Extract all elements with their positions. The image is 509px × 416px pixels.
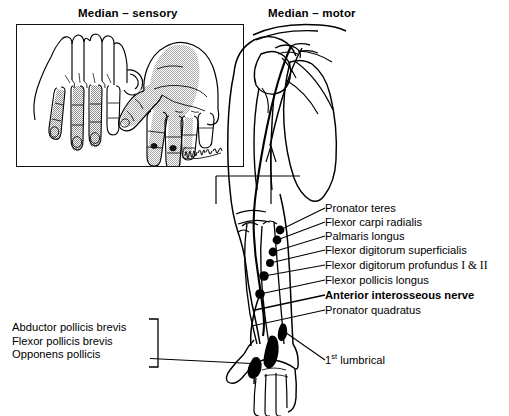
label-first-lumbrical: 1st lumbrical	[325, 355, 385, 366]
hand-thenar-view	[226, 324, 298, 416]
label-abductor-pollicis-brevis: Abductor pollicis brevis	[12, 322, 126, 333]
label-anterior-interosseous-nerve: Anterior interosseous nerve	[325, 290, 474, 301]
label-flexor-digitorum-superficialis: Flexor digitorum superficialis	[325, 245, 467, 256]
label-fdp-text: Flexor digitorum profundus I & II	[325, 259, 488, 271]
dorsal-hand-view	[34, 34, 143, 151]
thenar-group-bracket	[148, 318, 170, 368]
thenar-muscle-mass-lower	[248, 357, 262, 379]
dorsal-sensory-shading	[49, 85, 102, 151]
thenar-muscle-mass-upper	[263, 336, 278, 369]
fdp-roman-numerals: I & II	[461, 259, 487, 272]
leader-lines-right	[252, 208, 325, 360]
label-flexor-pollicis-brevis: Flexor pollicis brevis	[12, 336, 126, 347]
shoulder-girdle	[228, 24, 346, 201]
label-pronator-teres: Pronator teres	[325, 203, 396, 214]
thenar-muscle-label-group: Abductor pollicis brevis Flexor pollicis…	[12, 322, 126, 363]
label-opponens-pollicis: Opponens pollicis	[12, 349, 126, 360]
label-flexor-pollicis-longus: Flexor pollicis longus	[325, 275, 429, 286]
label-flexor-digitorum-profundus: Flexor digitorum profundus I & II	[325, 260, 488, 272]
label-palmaris-longus: Palmaris longus	[325, 231, 405, 242]
lumbrical-name: lumbrical	[337, 354, 385, 366]
figure-canvas: Median – sensory Median – motor	[0, 0, 509, 416]
label-pronator-quadratus: Pronator quadratus	[325, 305, 421, 316]
branch-dot-palmaris-longus	[269, 248, 278, 257]
label-flexor-carpi-radialis: Flexor carpi radialis	[325, 217, 422, 228]
